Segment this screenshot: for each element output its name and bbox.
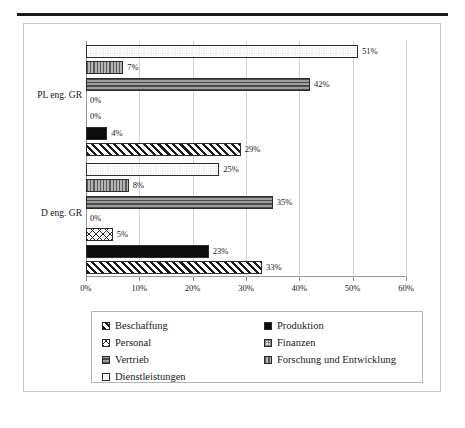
x-tick-20% <box>193 277 194 281</box>
bar-beschaffung-pl-eng-gr <box>86 143 241 156</box>
legend-label: Produktion <box>277 320 324 331</box>
bar-value-label: 35% <box>277 196 293 209</box>
category-label-d-eng-gr: D eng. GR <box>30 208 82 218</box>
chart-plot-area: 51%7%42%0%0%4%29%25%8%35%0%5%23%33% <box>86 41 406 277</box>
legend-label: Beschaffung <box>115 320 168 331</box>
category-label-pl-eng-gr: PL eng. GR <box>30 90 82 100</box>
x-tick-50% <box>353 277 354 281</box>
legend-swatch-finanzen-icon <box>264 339 272 347</box>
x-axis-label-60%: 60% <box>398 283 414 293</box>
legend-swatch-personal-icon <box>102 339 110 347</box>
legend-label: Vertrieb <box>115 354 149 365</box>
x-axis-label-0%: 0% <box>80 283 91 293</box>
legend-item-produktion[interactable]: Produktion <box>264 317 324 334</box>
bar-personal-d-eng-gr <box>86 228 113 241</box>
legend-label: Personal <box>115 337 151 348</box>
bar-value-label: 4% <box>111 127 122 140</box>
x-tick-30% <box>246 277 247 281</box>
x-axis-label-20%: 20% <box>185 283 201 293</box>
bar-value-label: 0% <box>90 212 101 225</box>
x-tick-0% <box>86 277 87 281</box>
gridline-40% <box>299 41 300 277</box>
bar-value-label: 25% <box>223 163 239 176</box>
legend-label: Dienstleistungen <box>115 371 186 382</box>
x-tick-10% <box>139 277 140 281</box>
bar-vertrieb-pl-eng-gr <box>86 78 310 91</box>
x-tick-60% <box>406 277 407 281</box>
bar-produktion-d-eng-gr <box>86 245 209 258</box>
legend-item-personal[interactable]: Personal <box>102 334 151 351</box>
gridline-20% <box>193 41 194 277</box>
x-axis-label-40%: 40% <box>292 283 308 293</box>
bar-forschung-und-entwicklung-d-eng-gr <box>86 179 129 192</box>
bar-produktion-pl-eng-gr <box>86 127 107 140</box>
bar-value-label: 51% <box>362 45 378 58</box>
bar-dienstleistungen-pl-eng-gr <box>86 45 358 58</box>
bar-value-label: 5% <box>117 228 128 241</box>
x-axis-label-50%: 50% <box>345 283 361 293</box>
bar-value-label: 8% <box>133 179 144 192</box>
x-axis-label-10%: 10% <box>132 283 148 293</box>
bar-value-label: 0% <box>90 94 101 107</box>
legend-swatch-beschaffung-icon <box>102 322 110 330</box>
legend-swatch-forschung-und-entwicklung-icon <box>264 356 272 364</box>
gridline-60% <box>406 41 407 277</box>
bar-dienstleistungen-d-eng-gr <box>86 163 219 176</box>
bar-value-label: 23% <box>213 245 229 258</box>
bar-vertrieb-d-eng-gr <box>86 196 273 209</box>
bar-value-label: 33% <box>266 261 282 274</box>
legend-item-dienstleistungen[interactable]: Dienstleistungen <box>102 368 186 385</box>
legend-label: Forschung und Entwicklung <box>277 354 396 365</box>
top-horizontal-rule <box>17 13 448 16</box>
chart-legend: BeschaffungProduktionPersonalFinanzenVer… <box>91 311 423 383</box>
x-tick-40% <box>299 277 300 281</box>
legend-item-vertrieb[interactable]: Vertrieb <box>102 351 149 368</box>
legend-swatch-vertrieb-icon <box>102 356 110 364</box>
gridline-50% <box>353 41 354 277</box>
x-axis-label-30%: 30% <box>238 283 254 293</box>
gridline-30% <box>246 41 247 277</box>
legend-item-beschaffung[interactable]: Beschaffung <box>102 317 168 334</box>
bar-value-label: 42% <box>314 78 330 91</box>
bar-forschung-und-entwicklung-pl-eng-gr <box>86 61 123 74</box>
legend-item-forschung-und-entwicklung[interactable]: Forschung und Entwicklung <box>264 351 396 368</box>
legend-swatch-dienstleistungen-icon <box>102 373 110 381</box>
legend-label: Finanzen <box>277 337 316 348</box>
bar-value-label: 29% <box>245 143 261 156</box>
legend-item-finanzen[interactable]: Finanzen <box>264 334 316 351</box>
bar-value-label: 0% <box>90 110 101 123</box>
bar-beschaffung-d-eng-gr <box>86 261 262 274</box>
legend-swatch-produktion-icon <box>264 322 272 330</box>
gridline-10% <box>139 41 140 277</box>
bar-value-label: 7% <box>127 61 138 74</box>
